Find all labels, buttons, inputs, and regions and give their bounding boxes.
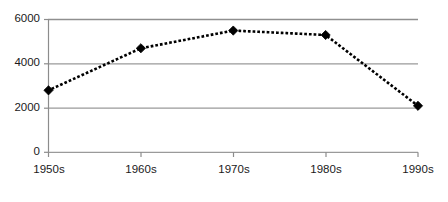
data-point-1960s [136, 44, 145, 53]
data-point-markers [44, 26, 423, 110]
line-chart: 6000 4000 2000 0 1950s 1960s 1970s 1980s… [0, 0, 448, 202]
x-tick-label-1960s: 1960s [110, 164, 172, 176]
x-tick-label-1990s: 1990s [387, 164, 448, 176]
y-tick-label-4000: 4000 [4, 57, 40, 69]
data-point-1950s [44, 86, 53, 95]
x-tick-label-1980s: 1980s [295, 164, 357, 176]
y-axis-ticks [44, 20, 48, 153]
x-tick-label-1950s: 1950s [18, 164, 80, 176]
x-tick-label-1970s: 1970s [203, 164, 265, 176]
data-point-1970s [229, 26, 238, 35]
x-axis-ticks [49, 152, 419, 157]
y-tick-label-2000: 2000 [4, 102, 40, 114]
y-tick-label-0: 0 [4, 146, 40, 158]
y-tick-label-6000: 6000 [4, 13, 40, 25]
data-series-line [49, 31, 419, 106]
axes [48, 19, 418, 153]
